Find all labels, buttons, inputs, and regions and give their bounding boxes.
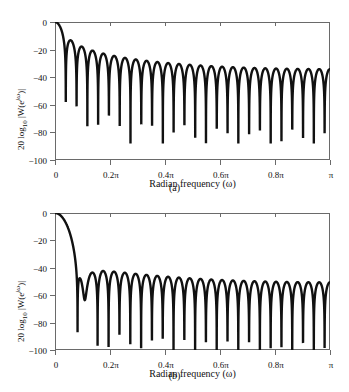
x-tick-a-06pi: 0.6π [220,160,221,165]
spectrum-curve-a [55,22,330,160]
x-tick-a-04pi: 0.4π [165,160,166,165]
x-tick-a-0: 0 [55,160,56,165]
y-tick-a-40: −40 [50,77,55,78]
x-tick-b-04pi: 0.4π [165,350,166,355]
plot-area-b: 0 −20 −40 −60 −80 −100 0 0.2π 0.4π 0.6π … [55,213,330,350]
x-tick-b-08pi: 0.8π [275,350,276,355]
y-tick-b-60: −60 [50,295,55,296]
x-tick-b-02pi: 0.2π [110,350,111,355]
x-tick-b-0: 0 [55,350,56,355]
figure-panel-b: 20 log10 |W(ejω)| 0 −20 −40 −60 −80 −100… [0,196,349,392]
x-tick-a-02pi: 0.2π [110,160,111,165]
x-tick-a-08pi-inner [275,22,276,26]
y-tick-a-0: 0 [50,22,55,23]
caption-b: (b) [0,370,349,381]
x-tick-b-06pi: 0.6π [220,350,221,355]
y-tick-b-40: −40 [50,268,55,269]
x-tick-a-pi: π [330,160,331,165]
y-tick-a-20: −20 [50,50,55,51]
x-tick-b-02pi-inner [110,213,111,217]
x-tick-b-06pi-inner [220,213,221,217]
figure-panel-a: 20 log10 |W(ejω)| 0 −20 −40 −60 −80 −100… [0,0,349,196]
caption-a: (a) [0,182,349,193]
y-tick-a-60: −60 [50,105,55,106]
y-tick-b-80: −80 [50,323,55,324]
x-tick-b-pi: π [330,350,331,355]
x-tick-b-04pi-inner [165,213,166,217]
y-tick-a-80: −80 [50,132,55,133]
x-tick-b-08pi-inner [275,213,276,217]
spectrum-curve-b [55,213,330,350]
y-tick-b-20: −20 [50,240,55,241]
x-tick-a-06pi-inner [220,22,221,26]
plot-area-a: 0 −20 −40 −60 −80 −100 0 0.2π 0.4π 0.6π … [55,22,330,160]
x-tick-a-04pi-inner [165,22,166,26]
x-tick-a-02pi-inner [110,22,111,26]
y-axis-label-a: 20 log10 |W(ejω)| [14,89,29,150]
x-tick-a-08pi: 0.8π [275,160,276,165]
y-axis-label-b: 20 log10 |W(ejω)| [14,281,29,342]
y-tick-b-0: 0 [50,213,55,214]
